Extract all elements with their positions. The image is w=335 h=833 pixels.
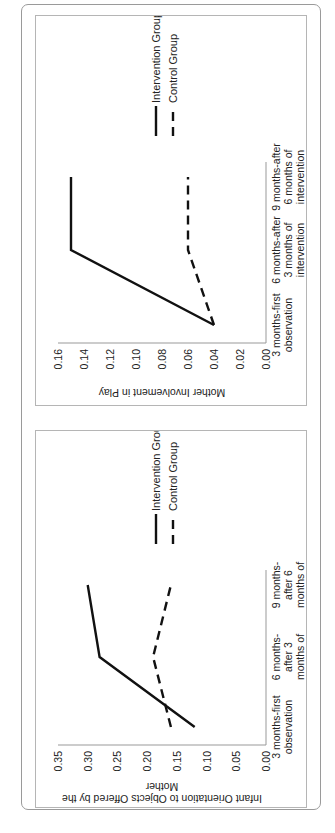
x-tick-label: after 6 [282,570,294,600]
x-tick-label: months of [294,562,306,608]
line-chart: 0.000.050.100.150.200.250.300.35Infant O… [36,431,306,807]
intervention-group-line [88,585,195,727]
legend-label: Control Group [167,34,179,103]
svg-text:Mother: Mother [145,781,178,793]
control-group-line [153,585,171,727]
legend-label: Intervention Group [150,431,162,511]
x-tick-label: 6 months of [282,149,294,204]
x-tick-label: 9 months- [270,561,282,608]
chart-mother-involvement: 0.000.020.040.060.080.100.120.140.16Moth… [35,15,307,406]
svg-text:Mother Involvement in Play: Mother Involvement in Play [98,387,225,399]
y-tick-label: 0.30 [82,751,94,772]
x-tick-label: 6 months-after [270,216,282,284]
y-tick-label: 0.05 [230,751,242,772]
x-tick-label: intervention [294,223,306,277]
chart-infant-orientation: 0.000.050.100.150.200.250.300.35Infant O… [35,430,307,808]
y-tick-label: 0.10 [201,751,213,772]
svg-text:Infant Orientation to Objects: Infant Orientation to Objects Offered by… [62,793,262,805]
x-tick-label: 3 months of [282,222,294,277]
y-tick-label: 0.16 [52,349,64,370]
x-tick-label: 6 months- [270,633,282,680]
control-group-line [188,177,214,325]
x-tick-label: observation [282,298,294,352]
x-tick-label: observation [282,700,294,754]
y-tick-label: 0.25 [111,751,123,772]
y-tick-label: 0.12 [104,349,116,370]
x-tick-label: months of [294,634,306,680]
legend-label: Control Group [167,442,179,511]
y-tick-label: 0.35 [52,751,64,772]
y-tick-label: 0.08 [156,349,168,370]
x-tick-label: 3 months-first [270,293,282,357]
x-tick-label: intervention [294,150,306,204]
x-tick-label: 3 months-first [270,695,282,759]
intervention-group-line [71,177,214,325]
y-tick-label: 0.15 [171,751,183,772]
y-tick-label: 0.02 [234,349,246,370]
line-chart: 0.000.020.040.060.080.100.120.140.16Moth… [36,16,306,405]
legend-label: Intervention Group [150,16,162,103]
y-tick-label: 0.04 [208,349,220,370]
x-tick-label: 9 months-after [270,143,282,211]
y-tick-label: 0.06 [182,349,194,370]
y-tick-label: 0.14 [78,349,90,370]
y-axis-title: Infant Orientation to Objects Offered by… [62,781,262,805]
x-tick-label: after 3 [282,642,294,672]
y-tick-label: 0.10 [130,349,142,370]
y-axis-title: Mother Involvement in Play [98,387,225,399]
y-tick-label: 0.20 [141,751,153,772]
